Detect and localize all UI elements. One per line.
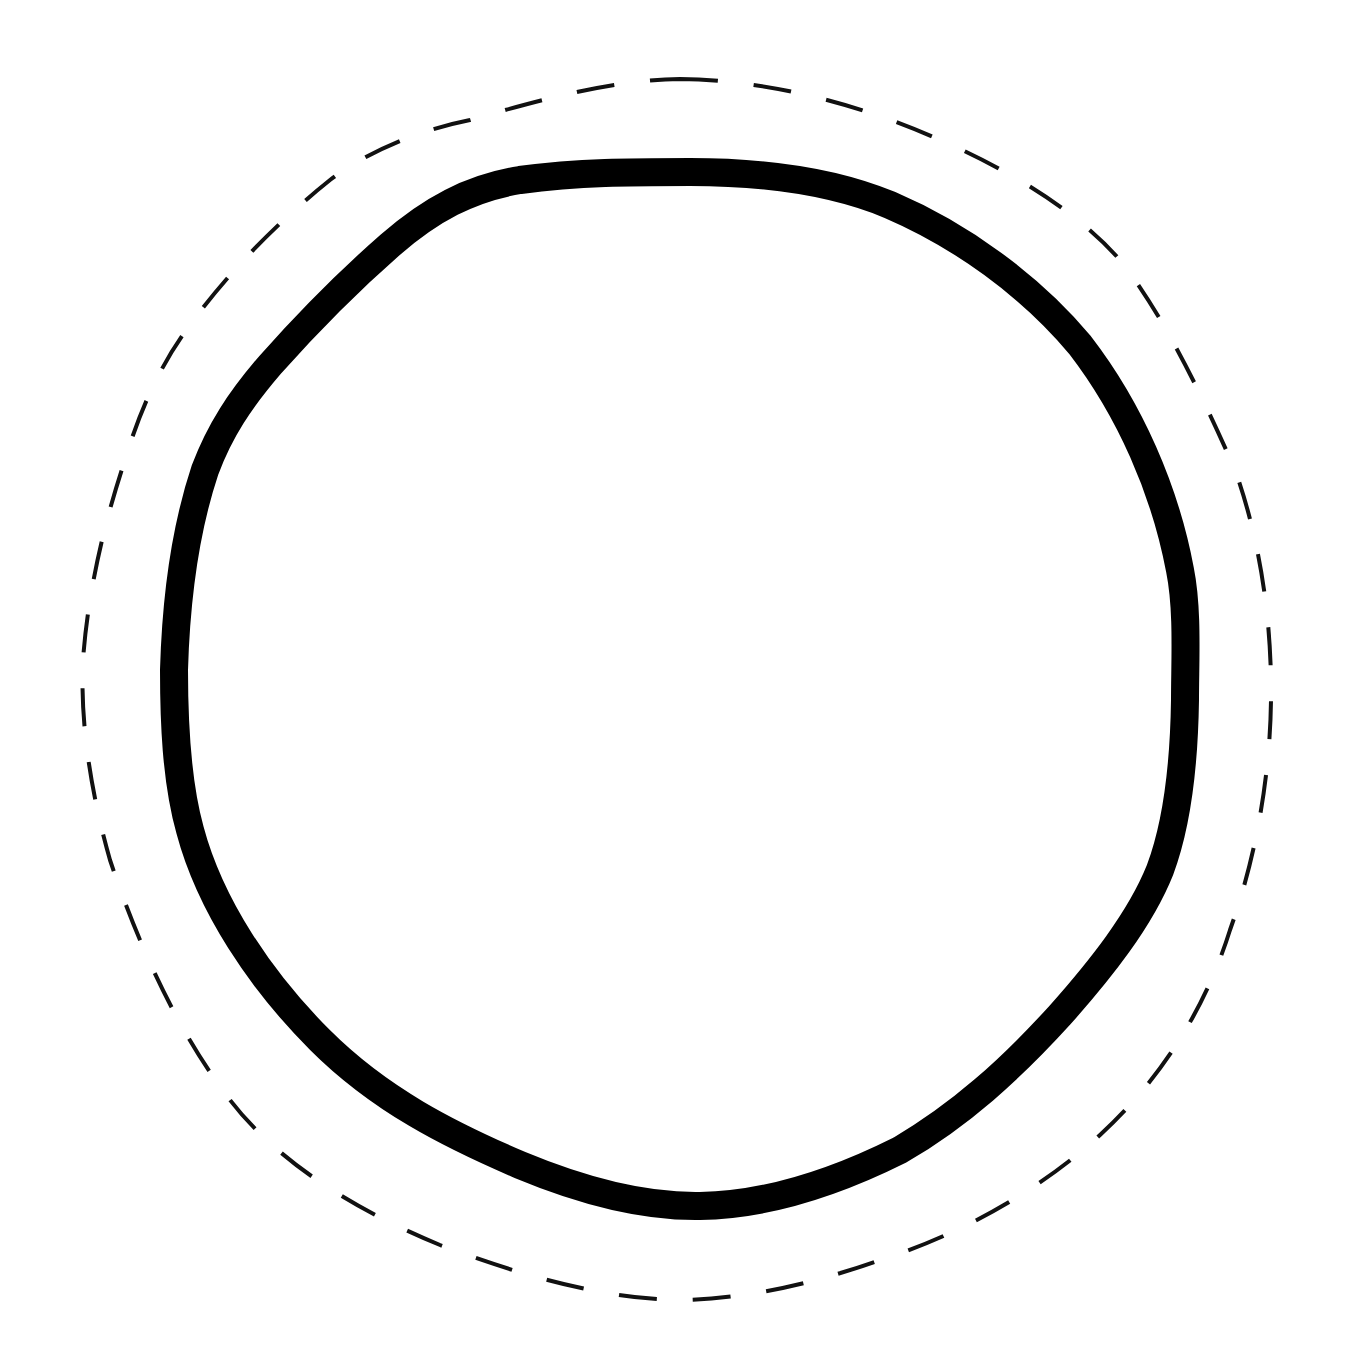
diagram-svg xyxy=(0,0,1346,1364)
outer-dashed-boundary xyxy=(82,79,1271,1300)
inner-solid-boundary xyxy=(174,172,1186,1206)
diagram-canvas xyxy=(0,0,1346,1364)
